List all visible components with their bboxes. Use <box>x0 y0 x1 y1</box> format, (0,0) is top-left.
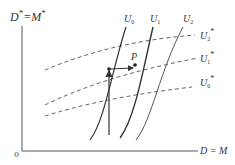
indifference-diagram: D*=M* 0 D = M U2* U1* U0* U0 U1 U2 P <box>0 0 235 165</box>
label-u2-star: U2* <box>200 27 214 42</box>
x-axis-label: D = M <box>199 145 228 156</box>
label-u0-star: U0* <box>200 74 214 89</box>
point-p-label: P <box>130 51 137 62</box>
horizontal-arrow <box>110 68 133 69</box>
solid-curve-u2 <box>136 27 183 140</box>
solid-curve-u1 <box>120 27 153 138</box>
label-u1-star: U1* <box>200 50 214 65</box>
dashed-curve-u2-star <box>45 35 195 70</box>
solid-curve-u0 <box>90 27 126 140</box>
label-u1: U1 <box>150 13 160 25</box>
dashed-curve-u0-star <box>45 87 192 116</box>
start-point <box>107 67 111 71</box>
y-axis-label: D*=M* <box>9 8 46 24</box>
origin-label: 0 <box>14 150 19 159</box>
point-p <box>133 63 137 67</box>
label-u0: U0 <box>124 13 134 25</box>
label-u2: U2 <box>183 13 193 25</box>
